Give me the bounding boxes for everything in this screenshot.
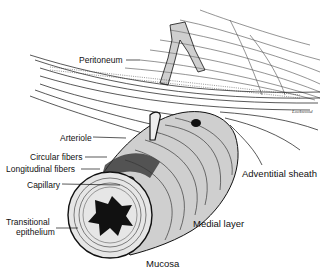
label-circular-fibers: Circular fibers xyxy=(30,152,82,162)
label-transitional-epithelium-line1: Transitional xyxy=(6,217,50,227)
label-adventitial-sheath: Adventitial sheath xyxy=(242,169,317,179)
label-transitional-epithelium-line2: epithelium xyxy=(16,227,55,237)
signature: Lockwood xyxy=(291,109,313,114)
label-arteriole: Arteriole xyxy=(60,133,92,143)
label-capillary: Capillary xyxy=(27,180,60,190)
ureter-anatomy-figure: Lockwood Peritoneum Arteriole Circular f… xyxy=(0,0,323,277)
label-peritoneum: Peritoneum xyxy=(79,55,122,65)
label-medial-layer: Medial layer xyxy=(193,219,244,229)
label-longitudinal-fibers: Longitudinal fibers xyxy=(6,164,75,174)
label-mucosa: Mucosa xyxy=(146,259,179,269)
